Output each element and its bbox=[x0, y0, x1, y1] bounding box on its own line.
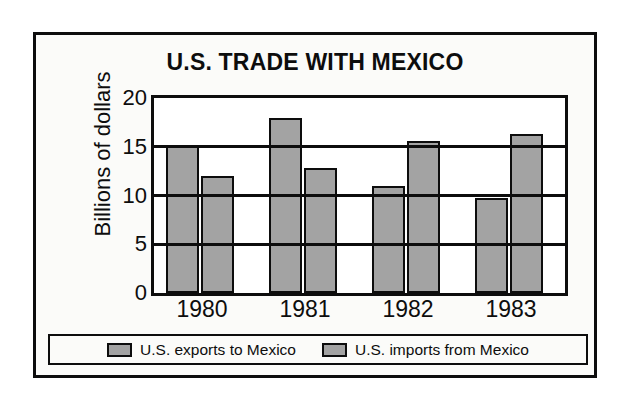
y-tick-label-15: 15 bbox=[123, 134, 147, 160]
bar-1982-imports bbox=[407, 141, 440, 293]
plot-area: 1980198119821983 05101520 bbox=[151, 95, 568, 296]
bar-1980-exports bbox=[166, 145, 199, 293]
legend-item-exports: U.S. exports to Mexico bbox=[107, 341, 296, 359]
legend-label-imports: U.S. imports from Mexico bbox=[355, 341, 529, 359]
y-axis-title: Billions of dollars bbox=[90, 50, 116, 258]
gridline-5 bbox=[154, 243, 565, 246]
plot-inner: 1980198119821983 05101520 bbox=[154, 98, 565, 293]
gridline-10 bbox=[154, 194, 565, 197]
y-tick-label-5: 5 bbox=[135, 231, 147, 257]
x-tick-label-1980: 1980 bbox=[148, 296, 256, 323]
bar-1983-imports bbox=[510, 134, 543, 293]
gridline-15 bbox=[154, 145, 565, 148]
bar-1982-exports bbox=[372, 186, 405, 293]
legend-item-imports: U.S. imports from Mexico bbox=[322, 341, 529, 359]
chart-title: U.S. TRADE WITH MEXICO bbox=[36, 49, 594, 76]
legend-swatch-icon-exports bbox=[107, 343, 132, 357]
y-tick-label-20: 20 bbox=[123, 85, 147, 111]
x-tick-label-1981: 1981 bbox=[251, 296, 359, 323]
bar-1981-exports bbox=[269, 118, 302, 294]
bar-1981-imports bbox=[304, 168, 337, 293]
y-tick-label-10: 10 bbox=[123, 183, 147, 209]
legend-swatch-icon-imports bbox=[322, 343, 347, 357]
chart-legend: U.S. exports to Mexico U.S. imports from… bbox=[48, 334, 588, 365]
x-tick-label-1983: 1983 bbox=[457, 296, 565, 323]
y-tick-label-0: 0 bbox=[135, 280, 147, 306]
legend-label-exports: U.S. exports to Mexico bbox=[140, 341, 296, 359]
chart-figure-frame: U.S. TRADE WITH MEXICO Billions of dolla… bbox=[33, 32, 597, 378]
x-tick-label-1982: 1982 bbox=[354, 296, 462, 323]
